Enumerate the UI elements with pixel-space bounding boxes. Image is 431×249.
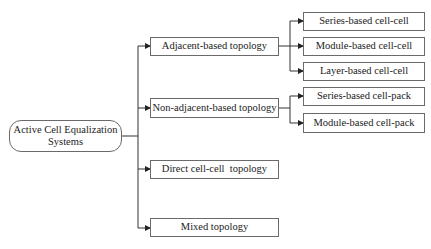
- root-label-line1: Active Cell Equalization: [14, 124, 118, 136]
- node-direct-cell-cell-topology: Direct cell-cell topology: [150, 160, 279, 179]
- node-module-based-cell-pack: Module-based cell-pack: [303, 113, 425, 133]
- node-series-based-cell-cell: Series-based cell-cell: [303, 12, 425, 31]
- node-layer-based-cell-cell: Layer-based cell-cell: [303, 62, 425, 81]
- node-label: Module-based cell-pack: [313, 117, 414, 129]
- node-label: Direct cell-cell topology: [162, 163, 267, 175]
- node-label: Module-based cell-cell: [316, 40, 413, 52]
- node-label: Adjacent-based topology: [162, 40, 267, 52]
- root-node-active-cell-equalization: Active Cell Equalization Systems: [9, 120, 122, 152]
- node-mixed-topology: Mixed topology: [150, 218, 279, 237]
- root-label-line2: Systems: [48, 136, 83, 148]
- node-label: Series-based cell-pack: [317, 90, 411, 102]
- node-label: Non-adjacent-based topology: [153, 102, 277, 114]
- node-series-based-cell-pack: Series-based cell-pack: [303, 87, 425, 106]
- node-module-based-cell-cell: Module-based cell-cell: [303, 37, 425, 56]
- node-label: Layer-based cell-cell: [320, 65, 408, 77]
- node-label: Series-based cell-cell: [319, 15, 409, 27]
- node-non-adjacent-based-topology: Non-adjacent-based topology: [150, 98, 279, 118]
- node-adjacent-based-topology: Adjacent-based topology: [150, 37, 279, 56]
- node-label: Mixed topology: [181, 221, 248, 233]
